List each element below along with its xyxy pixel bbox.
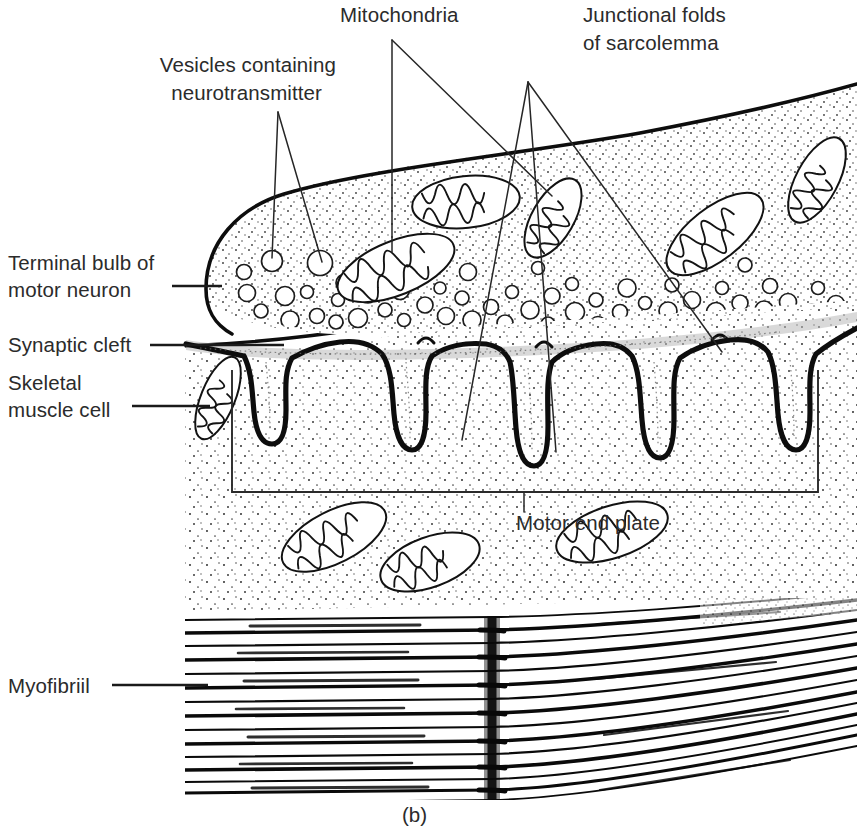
label-motor-end-plate: Motor end plate — [516, 511, 660, 534]
label-skeletal-muscle-cell-line1: Skeletal — [8, 371, 82, 394]
figure-page: Mitochondria Junctional folds of sarcole… — [0, 0, 857, 830]
label-synaptic-cleft-line1: Synaptic cleft — [8, 333, 132, 356]
label-synaptic-cleft: Synaptic cleft — [8, 333, 132, 356]
label-terminal-bulb-line1: Terminal bulb of — [8, 251, 155, 274]
label-myofibril: Myofibriil — [8, 674, 90, 697]
figure-caption-text: (b) — [402, 803, 427, 826]
figure-caption: (b) — [402, 803, 427, 826]
label-motor-end-plate-line1: Motor end plate — [516, 511, 660, 534]
label-terminal-bulb: Terminal bulb of motor neuron — [8, 251, 155, 301]
label-vesicles: Vesicles containing neurotransmitter — [160, 53, 336, 104]
label-skeletal-muscle-cell-line2: muscle cell — [8, 398, 111, 421]
label-junctional-folds-line1: Junctional folds — [583, 3, 726, 26]
label-mitochondria-line1: Mitochondria — [340, 3, 459, 26]
label-junctional-folds-line2: of sarcolemma — [583, 31, 719, 54]
label-skeletal-muscle-cell: Skeletal muscle cell — [8, 371, 111, 421]
neuromuscular-junction-diagram: Mitochondria Junctional folds of sarcole… — [0, 0, 857, 830]
label-vesicles-line1: Vesicles containing — [160, 53, 336, 76]
label-junctional-folds: Junctional folds of sarcolemma — [583, 3, 726, 54]
label-mitochondria: Mitochondria — [340, 3, 459, 26]
label-terminal-bulb-line2: motor neuron — [8, 278, 131, 301]
label-vesicles-line2: neurotransmitter — [171, 81, 322, 104]
label-myofibril-line1: Myofibriil — [8, 674, 90, 697]
